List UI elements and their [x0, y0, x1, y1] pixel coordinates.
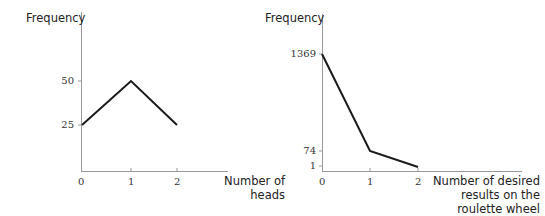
- right-chart-line: [322, 54, 418, 167]
- left-xtick-1: 1: [128, 176, 134, 188]
- right-ytick-74: 74: [288, 145, 316, 157]
- right-y-axis-label: Frequency: [265, 11, 324, 25]
- left-ytick-25: 25: [54, 119, 74, 131]
- left-chart-axes: [78, 12, 228, 172]
- left-xtick-2: 2: [174, 176, 180, 188]
- right-xlabel-line1: Number of desired: [425, 174, 540, 188]
- right-xlabel-line3: roulette wheel: [425, 202, 540, 216]
- right-ytick-1369: 1369: [288, 48, 316, 60]
- right-ytick-1: 1: [288, 160, 316, 172]
- right-xlabel-line2: results on the: [425, 188, 540, 202]
- left-ytick-50: 50: [54, 75, 74, 87]
- left-xtick-0: 0: [78, 176, 84, 188]
- left-x-axis-label: Number of heads: [200, 174, 285, 202]
- right-chart-axes: [319, 14, 522, 172]
- left-xlabel-line1: Number of: [200, 174, 285, 188]
- right-xtick-2: 2: [415, 176, 421, 188]
- left-xlabel-line2: heads: [200, 188, 285, 202]
- right-xtick-0: 0: [319, 176, 325, 188]
- right-xtick-1: 1: [367, 176, 373, 188]
- left-y-axis-label: Frequency: [26, 11, 85, 25]
- right-x-axis-label: Number of desired results on the roulett…: [425, 174, 540, 216]
- left-chart-line: [82, 81, 177, 125]
